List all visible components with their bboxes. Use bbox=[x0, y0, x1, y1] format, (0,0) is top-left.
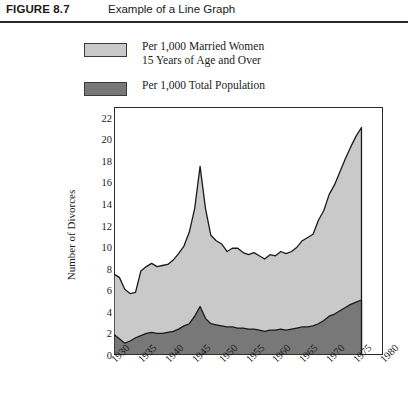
y-tick-label-14: 14 bbox=[102, 199, 113, 210]
y-tick-label-10: 10 bbox=[102, 242, 113, 253]
y-tick-label-8: 8 bbox=[107, 263, 112, 274]
legend-label-total-population: Per 1,000 Total Population bbox=[142, 79, 265, 93]
y-tick-label-6: 6 bbox=[107, 285, 112, 296]
y-tick-label-22: 22 bbox=[102, 112, 113, 123]
figure-number: FIGURE 8.7 bbox=[6, 3, 70, 15]
figure-caption: Example of a Line Graph bbox=[108, 3, 235, 15]
legend-label-married-women-line1: Per 1,000 Married Women bbox=[142, 40, 264, 52]
y-tick-label-18: 18 bbox=[102, 155, 113, 166]
y-tick-label-16: 16 bbox=[102, 177, 113, 188]
area-chart-svg bbox=[114, 107, 383, 355]
header-divider-rule bbox=[0, 21, 408, 23]
y-tick-label-4: 4 bbox=[107, 306, 112, 317]
y-axis-tick-labels: 0246810121416182022 bbox=[88, 107, 112, 355]
y-tick-label-12: 12 bbox=[102, 220, 113, 231]
figure-header: FIGURE 8.7 Example of a Line Graph bbox=[0, 0, 408, 22]
x-axis-tick-labels: 1930193519401945195019551960196519701975… bbox=[114, 357, 383, 395]
chart-plot-area bbox=[114, 107, 383, 355]
legend-swatch-married-women bbox=[84, 43, 127, 57]
y-tick-label-2: 2 bbox=[107, 328, 112, 339]
legend-label-married-women-line2: 15 Years of Age and Over bbox=[142, 54, 264, 68]
legend-swatch-total-population bbox=[84, 82, 127, 96]
y-axis-title: Number of Divorces bbox=[65, 190, 77, 280]
legend-label-married-women: Per 1,000 Married Women 15 Years of Age … bbox=[142, 40, 264, 67]
legend-label-total-population-line1: Per 1,000 Total Population bbox=[142, 79, 265, 91]
y-tick-label-20: 20 bbox=[102, 134, 113, 145]
